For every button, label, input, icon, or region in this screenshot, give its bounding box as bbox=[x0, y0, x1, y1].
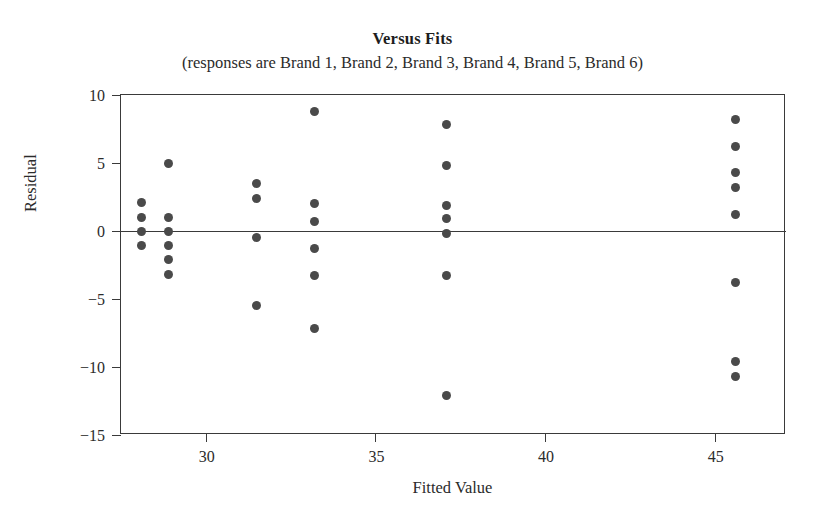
y-axis-tick-label: −10 bbox=[80, 357, 105, 379]
plot-area: 1050−5−10−1530354045 bbox=[120, 94, 785, 434]
scatter-point bbox=[310, 244, 319, 253]
scatter-point bbox=[310, 271, 319, 280]
x-axis-tick-label: 45 bbox=[708, 446, 724, 468]
y-axis-tick-label: −15 bbox=[80, 425, 105, 447]
scatter-point bbox=[731, 183, 740, 192]
y-axis-tick-label: 5 bbox=[97, 153, 105, 175]
y-axis-tick: −5 bbox=[112, 299, 121, 300]
scatter-point bbox=[252, 301, 261, 310]
scatter-point bbox=[137, 213, 146, 222]
scatter-point bbox=[137, 227, 146, 236]
scatter-point bbox=[310, 217, 319, 226]
x-axis-tick: 30 bbox=[206, 433, 207, 442]
scatter-point bbox=[164, 255, 173, 264]
title-block: Versus Fits (responses are Brand 1, Bran… bbox=[0, 28, 825, 74]
scatter-point bbox=[252, 194, 261, 203]
versus-fits-scatter-figure: Versus Fits (responses are Brand 1, Bran… bbox=[0, 0, 825, 529]
y-axis-tick: 0 bbox=[112, 231, 121, 232]
scatter-point bbox=[164, 159, 173, 168]
scatter-point bbox=[310, 107, 319, 116]
y-axis-tick-label: 10 bbox=[89, 85, 105, 107]
y-axis-tick-label: 0 bbox=[97, 221, 105, 243]
y-axis-tick: 5 bbox=[112, 163, 121, 164]
scatter-point bbox=[731, 210, 740, 219]
scatter-point bbox=[442, 271, 451, 280]
x-axis-tick: 40 bbox=[545, 433, 546, 442]
scatter-point bbox=[442, 201, 451, 210]
x-axis-label: Fitted Value bbox=[120, 478, 785, 498]
scatter-point bbox=[731, 168, 740, 177]
chart-subtitle: (responses are Brand 1, Brand 2, Brand 3… bbox=[0, 51, 825, 74]
x-axis-tick-label: 30 bbox=[199, 446, 215, 468]
scatter-point bbox=[310, 324, 319, 333]
scatter-point bbox=[731, 142, 740, 151]
scatter-point bbox=[164, 213, 173, 222]
scatter-point bbox=[137, 241, 146, 250]
y-axis-tick: 10 bbox=[112, 95, 121, 96]
scatter-point bbox=[164, 241, 173, 250]
scatter-point bbox=[137, 198, 146, 207]
scatter-point bbox=[164, 270, 173, 279]
y-axis-label: Residual bbox=[21, 178, 41, 212]
y-axis-tick-label: −5 bbox=[88, 289, 105, 311]
scatter-point bbox=[442, 161, 451, 170]
y-axis-tick: −15 bbox=[112, 435, 121, 436]
zero-reference-line bbox=[121, 231, 786, 232]
x-axis-tick: 35 bbox=[375, 433, 376, 442]
chart-title: Versus Fits bbox=[0, 28, 825, 49]
scatter-point bbox=[252, 233, 261, 242]
scatter-point bbox=[442, 120, 451, 129]
x-axis-tick: 45 bbox=[715, 433, 716, 442]
scatter-point bbox=[731, 357, 740, 366]
scatter-point bbox=[164, 227, 173, 236]
scatter-point bbox=[442, 229, 451, 238]
scatter-point bbox=[731, 372, 740, 381]
scatter-point bbox=[310, 199, 319, 208]
scatter-point bbox=[731, 278, 740, 287]
scatter-point bbox=[252, 179, 261, 188]
x-axis-tick-label: 40 bbox=[538, 446, 554, 468]
scatter-point bbox=[731, 115, 740, 124]
scatter-point bbox=[442, 391, 451, 400]
y-axis-tick: −10 bbox=[112, 367, 121, 368]
scatter-point bbox=[442, 214, 451, 223]
x-axis-tick-label: 35 bbox=[368, 446, 384, 468]
